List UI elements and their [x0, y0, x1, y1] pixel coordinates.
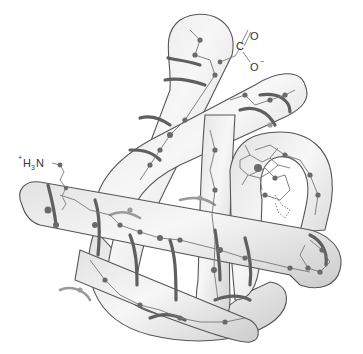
n-terminus-charge: + [18, 154, 22, 161]
n-terminus-n: N [36, 157, 44, 169]
c-terminus-charge: − [260, 58, 264, 65]
n-terminus-subscript: 3 [31, 164, 35, 171]
c-terminus-oxygen-single: O [250, 61, 259, 73]
c-terminus-carbon: C [236, 40, 244, 52]
c-terminus-oxygen-double: O [250, 30, 259, 42]
n-terminus-h: H [23, 157, 31, 169]
protein-tube-diagram: C O O − + H 3 N [0, 0, 363, 354]
